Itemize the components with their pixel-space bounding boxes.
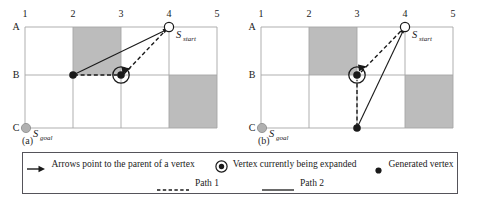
legend-label-path2: Path 2 (300, 179, 324, 189)
legend-label-path1: Path 1 (195, 179, 219, 189)
expanded-vertex-icon (215, 159, 228, 172)
legend-box: Arrows point to the parent of a vertex V… (22, 152, 458, 194)
column-label: 1 (259, 8, 264, 19)
start-label-subscript: start (183, 35, 197, 43)
arrow-icon (26, 160, 46, 170)
legend-row-primary: Arrows point to the parent of a vertex V… (23, 156, 457, 174)
row-label: C (13, 122, 20, 133)
row-label: A (248, 21, 256, 32)
obstacle-cell (405, 75, 453, 128)
panel-b-caption: (b) (258, 135, 270, 146)
row-labels-b: A B C (248, 21, 256, 133)
panel-a-caption: (a) (22, 135, 33, 146)
goal-label-b: S goal (269, 128, 289, 142)
obstacle-cell (73, 27, 121, 75)
row-label: B (13, 69, 20, 80)
path1-edge (361, 31, 401, 72)
column-label: 5 (215, 8, 220, 19)
start-label-a: S start (176, 29, 197, 43)
column-labels-a: 1 2 3 4 5 (23, 8, 220, 19)
legend-label-generated-vertex: Generated vertex (388, 160, 453, 170)
row-label: A (12, 21, 20, 32)
generated-vertex (69, 71, 77, 79)
column-labels-b: 1 2 3 4 5 (259, 8, 456, 19)
row-label: B (249, 69, 256, 80)
start-label-b: S start (412, 29, 433, 43)
panel-a: 1 2 3 4 5 A B C (0, 0, 241, 150)
legend-label-expanded-vertex: Vertex currently being expanded (233, 160, 357, 170)
legend-item-expanded-vertex: Vertex currently being expanded (215, 159, 357, 172)
column-label: 2 (71, 8, 76, 19)
row-labels-a: A B C (12, 21, 20, 133)
start-label-main: S (412, 29, 418, 40)
start-vertex (164, 22, 173, 31)
goal-label-subscript: goal (276, 134, 289, 142)
goal-label-subscript: goal (40, 134, 53, 142)
generated-vertex (353, 124, 361, 132)
column-label: 4 (403, 8, 408, 19)
expanded-vertex-dot (117, 71, 125, 79)
panels-container: 1 2 3 4 5 A B C (0, 0, 482, 150)
solid-line-icon (261, 180, 295, 188)
panel-b: 1 2 3 4 5 A B C (241, 0, 482, 150)
obstacle-cell (169, 75, 217, 128)
legend-label-arrow: Arrows point to the parent of a vertex (51, 160, 194, 170)
goal-label-a: S goal (33, 128, 53, 142)
column-label: 5 (451, 8, 456, 19)
start-label-main: S (176, 29, 182, 40)
goal-label-main: S (33, 128, 39, 139)
panel-b-diagram: 1 2 3 4 5 A B C (241, 0, 482, 150)
expanded-vertex-dot (353, 71, 361, 79)
column-label: 2 (307, 8, 312, 19)
legend-item-generated-vertex: Generated vertex (374, 160, 453, 170)
legend-item-path2: Path 2 (261, 179, 324, 189)
legend-item-path1: Path 1 (156, 179, 219, 189)
row-label: C (249, 122, 256, 133)
legend-row-paths: Path 1 Path 2 (23, 175, 457, 192)
dashed-line-icon (156, 180, 190, 188)
column-label: 4 (167, 8, 172, 19)
generated-vertex-icon (374, 161, 383, 170)
start-vertex (400, 22, 409, 31)
panel-a-diagram: 1 2 3 4 5 A B C (0, 0, 241, 150)
legend-item-arrow: Arrows point to the parent of a vertex (26, 160, 194, 170)
column-label: 3 (119, 8, 124, 19)
path1-edge (124, 31, 165, 74)
figure-root: 1 2 3 4 5 A B C (0, 0, 482, 203)
goal-vertex (257, 123, 266, 132)
goal-vertex (21, 123, 30, 132)
column-label: 3 (355, 8, 360, 19)
start-label-subscript: start (419, 35, 433, 43)
obstacle-cell (309, 27, 357, 75)
column-label: 1 (23, 8, 28, 19)
